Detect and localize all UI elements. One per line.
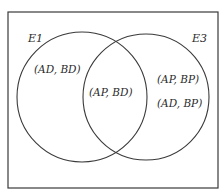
region-intersection-label: (AP, BD) bbox=[89, 87, 133, 98]
set-e1-label: E1 bbox=[28, 33, 43, 44]
set-e3-label: E3 bbox=[192, 33, 207, 44]
region-e3-only-label-2: (AD, BP) bbox=[157, 98, 202, 109]
venn-diagram: E1 E3 (AD, BD) (AP, BD) (AP, BP) (AD, BP… bbox=[0, 0, 223, 192]
region-e1-only-label: (AD, BD) bbox=[34, 64, 81, 75]
region-e3-only-label-1: (AP, BP) bbox=[157, 74, 199, 85]
